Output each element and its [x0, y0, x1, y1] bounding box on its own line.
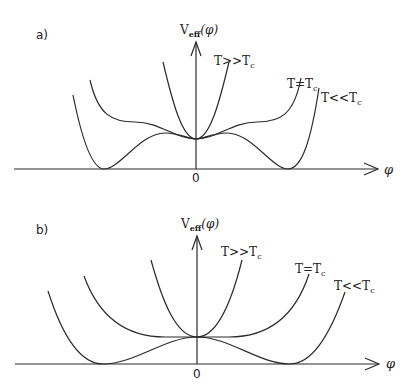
label-t-much-greater-tc: T>>Tc — [221, 245, 262, 261]
origin-label: 0 — [192, 171, 200, 185]
label-t-much-greater-tc: T>>Tc — [214, 54, 255, 70]
x-axis-label: φ — [384, 162, 394, 177]
x-axis-label: φ — [386, 356, 396, 371]
label-t-equal-tc: T=Tc — [295, 262, 326, 278]
panel-a-label: a) — [36, 28, 48, 42]
y-axis-label: Veff(φ) — [180, 217, 219, 233]
label-t-much-less-tc: T<<Tc — [321, 91, 362, 107]
panel-a: a) φ Veff(φ) 0 T>>Tc T=Tc T<<Tc — [14, 23, 394, 185]
label-t-equal-tc: T=Tc — [287, 77, 318, 93]
origin-label: 0 — [193, 367, 201, 381]
panel-b-label: b) — [36, 223, 48, 237]
effective-potential-diagram: a) φ Veff(φ) 0 T>>Tc T=Tc T<<Tc b) φ Vef… — [0, 0, 414, 391]
label-t-much-less-tc: T<<Tc — [334, 279, 375, 295]
panel-b: b) φ Veff(φ) 0 T>>Tc T=Tc T<<Tc — [15, 217, 396, 381]
y-axis-label: Veff(φ) — [179, 23, 218, 39]
